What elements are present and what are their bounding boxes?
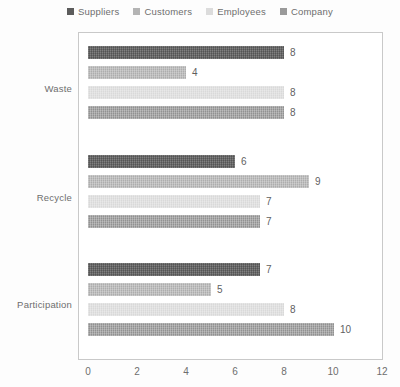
x-axis-tick: 4 [183,366,189,377]
legend-swatch-icon [280,8,287,15]
legend-swatch-icon [67,8,74,15]
legend-label: Employees [217,6,266,17]
chart-legend: Suppliers Customers Employees Company [0,0,400,22]
x-axis-tick: 6 [232,366,238,377]
legend-item-customers: Customers [133,6,192,17]
x-axis-tick: 12 [376,366,387,377]
x-axis-tick: 10 [327,366,338,377]
y-axis-label-waste: Waste [2,83,72,94]
y-axis-label-participation: Participation [2,299,72,310]
legend-swatch-icon [206,8,213,15]
y-axis-label-recycle: Recycle [2,192,72,203]
legend-item-suppliers: Suppliers [67,6,119,17]
x-axis-tick: 0 [85,366,91,377]
legend-label: Suppliers [78,6,119,17]
x-axis-tick: 8 [281,366,287,377]
bar-chart: Suppliers Customers Employees Company Wa… [0,0,400,387]
legend-label: Customers [144,6,192,17]
legend-item-employees: Employees [206,6,266,17]
plot-area [78,32,383,360]
legend-item-company: Company [280,6,333,17]
x-axis-tick: 2 [134,366,140,377]
legend-swatch-icon [133,8,140,15]
legend-label: Company [291,6,333,17]
